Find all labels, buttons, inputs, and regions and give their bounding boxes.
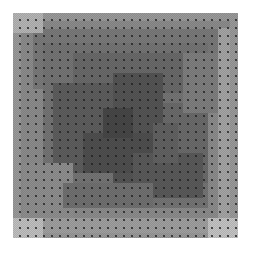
texture-block bbox=[28, 218, 223, 233]
texture-block bbox=[208, 218, 238, 238]
texture-block bbox=[153, 123, 178, 163]
texture-block bbox=[183, 53, 218, 113]
texture-block bbox=[13, 13, 43, 33]
texture-block bbox=[13, 218, 43, 238]
texture-block bbox=[103, 108, 133, 138]
grayscale-texture bbox=[13, 13, 238, 238]
texture-block bbox=[63, 183, 153, 208]
texture-block bbox=[218, 28, 230, 223]
